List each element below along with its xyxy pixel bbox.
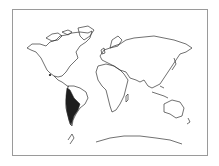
eurasia-outline [100, 36, 192, 88]
southeast-asia-islands-outline [152, 86, 168, 98]
scandinavia-outline [110, 36, 122, 48]
distribution-spot-central-america [49, 74, 51, 76]
arctic-islands-outline [46, 30, 72, 41]
australia-outline [164, 100, 184, 118]
world-map [0, 0, 219, 166]
japan-outline [172, 58, 176, 70]
antarctic-peninsula-outline [68, 134, 74, 144]
central-america-outline [54, 76, 69, 87]
madagascar-outline [126, 94, 128, 102]
new-zealand-outline [187, 118, 190, 124]
antarctica-outline [96, 136, 182, 144]
distribution-range-andes [66, 88, 80, 125]
